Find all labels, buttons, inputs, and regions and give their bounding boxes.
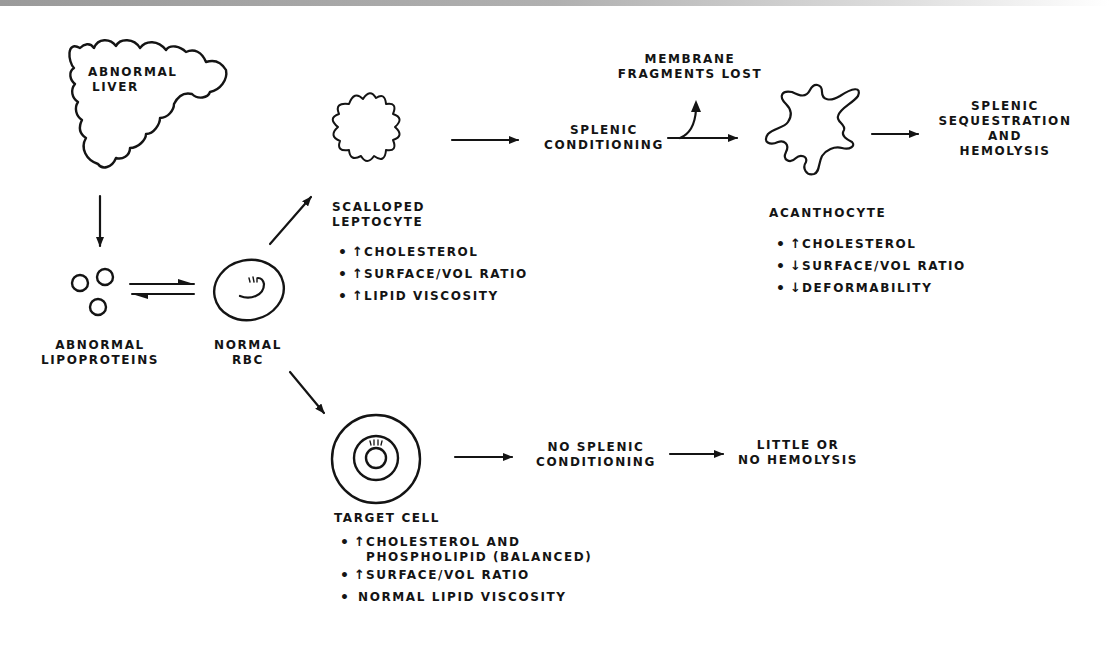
bullet-icon: • <box>338 245 352 259</box>
target-cell-property: • ↑ SURFACE/VOL RATIO <box>340 568 592 590</box>
lipoproteins-label-line1: ABNORMAL <box>32 338 168 353</box>
bullet-icon: • <box>340 590 354 604</box>
splenic-conditioning-line2: CONDITIONING <box>540 138 668 153</box>
splenic-sequestration-label: SPLENIC SEQUESTRATION AND HEMOLYSIS <box>930 99 1080 159</box>
leptocyte-label-line1: SCALLOPED <box>332 200 425 215</box>
property-text: LIPID VISCOSITY <box>364 289 499 304</box>
property-text: CHOLESTEROL <box>802 237 917 252</box>
normal-rbc-label-line2: RBC <box>208 353 288 368</box>
leptocyte-label: SCALLOPED LEPTOCYTE <box>332 200 425 230</box>
little-hemolysis-line2: NO HEMOLYSIS <box>728 453 868 468</box>
membrane-fragments-label: MEMBRANE FRAGMENTS LOST <box>600 52 780 82</box>
increase-arrow-icon: ↑ <box>354 535 366 549</box>
no-splenic-conditioning-line2: CONDITIONING <box>530 455 662 470</box>
acanthocyte-properties: • ↑ CHOLESTEROL • ↓ SURFACE/VOL RATIO • … <box>776 237 966 303</box>
bullet-icon: • <box>776 281 790 295</box>
leptocyte-property: • ↑ SURFACE/VOL RATIO <box>338 267 528 289</box>
target-cell-property: • NORMAL LIPID VISCOSITY <box>340 590 592 612</box>
normal-rbc-label: NORMAL RBC <box>208 338 288 368</box>
leptocyte-label-line2: LEPTOCYTE <box>332 215 425 230</box>
target-cell-label: TARGET CELL <box>334 511 440 526</box>
bullet-icon: • <box>338 267 352 281</box>
target-cell-icon <box>332 415 420 503</box>
liver-label-line1: ABNORMAL <box>88 65 178 80</box>
acanthocyte-property: • ↑ CHOLESTEROL <box>776 237 966 259</box>
liver-cloud-icon <box>69 40 226 167</box>
increase-arrow-icon: ↑ <box>354 568 366 582</box>
normal-rbc-icon <box>209 253 290 326</box>
property-text: NORMAL LIPID VISCOSITY <box>358 590 567 605</box>
membrane-fragments-line2: FRAGMENTS LOST <box>600 67 780 82</box>
little-hemolysis-line1: LITTLE OR <box>728 438 868 453</box>
lipoproteins-label-line2: LIPOPROTEINS <box>32 353 168 368</box>
lipoproteins-label: ABNORMAL LIPOPROTEINS <box>32 338 168 368</box>
target-cell-properties: • ↑ CHOLESTEROL AND PHOSPHOLIPID (BALANC… <box>340 535 592 612</box>
property-text: SURFACE/VOL RATIO <box>802 259 966 274</box>
acanthocyte-property: • ↓ SURFACE/VOL RATIO <box>776 259 966 281</box>
bullet-icon: • <box>776 237 790 251</box>
lipoprotein-icon <box>72 275 88 291</box>
liver-label: ABNORMAL LIVER <box>88 65 178 95</box>
property-text: CHOLESTEROL AND <box>366 535 520 550</box>
leptocyte-properties: • ↑ CHOLESTEROL • ↑ SURFACE/VOL RATIO • … <box>338 245 528 311</box>
splenic-sequestration-line1: SPLENIC <box>930 99 1080 114</box>
splenic-conditioning-line1: SPLENIC <box>540 123 668 138</box>
normal-rbc-label-line1: NORMAL <box>208 338 288 353</box>
splenic-sequestration-line3: AND <box>930 129 1080 144</box>
no-splenic-conditioning-label: NO SPLENIC CONDITIONING <box>530 440 662 470</box>
splenic-conditioning-label: SPLENIC CONDITIONING <box>540 123 668 153</box>
increase-arrow-icon: ↑ <box>352 245 364 259</box>
splenic-sequestration-line2: SEQUESTRATION <box>930 114 1080 129</box>
bullet-icon: • <box>340 568 354 582</box>
membrane-fragments-line1: MEMBRANE <box>600 52 780 67</box>
acanthocyte-property: • ↓ DEFORMABILITY <box>776 281 966 303</box>
decrease-arrow-icon: ↓ <box>790 259 802 273</box>
increase-arrow-icon: ↑ <box>790 237 802 251</box>
bullet-icon: • <box>340 535 354 549</box>
scalloped-leptocyte-icon <box>333 93 400 161</box>
decrease-arrow-icon: ↓ <box>790 281 802 295</box>
leptocyte-property: • ↑ LIPID VISCOSITY <box>338 289 528 311</box>
increase-arrow-icon: ↑ <box>352 267 364 281</box>
bullet-icon: • <box>338 289 352 303</box>
liver-label-line2: LIVER <box>88 80 178 95</box>
little-hemolysis-label: LITTLE OR NO HEMOLYSIS <box>728 438 868 468</box>
no-splenic-conditioning-line1: NO SPLENIC <box>530 440 662 455</box>
acanthocyte-label: ACANTHOCYTE <box>769 206 886 221</box>
property-text: SURFACE/VOL RATIO <box>364 267 528 282</box>
property-text: SURFACE/VOL RATIO <box>366 568 530 583</box>
property-text-continuation: PHOSPHOLIPID (BALANCED) <box>340 550 592 568</box>
property-text: CHOLESTEROL <box>364 245 479 260</box>
bullet-icon: • <box>776 259 790 273</box>
property-text: DEFORMABILITY <box>802 281 932 296</box>
acanthocyte-icon <box>766 85 859 174</box>
splenic-sequestration-line4: HEMOLYSIS <box>930 144 1080 159</box>
target-cell-property: • ↑ CHOLESTEROL AND <box>340 535 592 550</box>
leptocyte-property: • ↑ CHOLESTEROL <box>338 245 528 267</box>
increase-arrow-icon: ↑ <box>352 289 364 303</box>
